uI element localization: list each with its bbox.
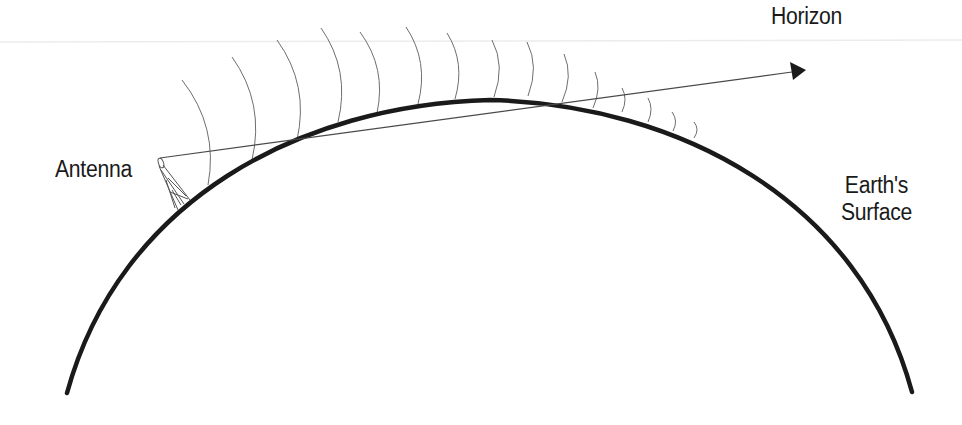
faint-top-rule [0, 40, 962, 42]
horizon-label: Horizon [771, 3, 842, 30]
wave-front-8 [492, 40, 499, 97]
wave-front-10 [562, 54, 568, 102]
wave-front-5 [360, 32, 380, 113]
antenna-tower-icon [157, 157, 190, 210]
earth-surface-label: Earth's Surface [841, 172, 912, 226]
wave-front-1 [182, 80, 210, 185]
wave-front-3 [277, 40, 300, 140]
wave-front-4 [321, 28, 342, 122]
earth-surface-label-line2: Surface [841, 199, 912, 226]
radio-horizon-diagram [0, 0, 962, 425]
wave-front-12 [622, 88, 625, 112]
wave-front-14 [672, 112, 676, 131]
earth-surface-arc [67, 100, 912, 393]
wave-front-2 [232, 57, 256, 160]
arrowhead-icon [790, 62, 806, 80]
antenna-label: Antenna [55, 156, 132, 183]
wave-front-13 [648, 98, 651, 122]
diagram-canvas: Horizon Antenna Earth's Surface [0, 0, 962, 425]
wave-front-11 [593, 72, 598, 108]
wave-front-7 [447, 33, 459, 99]
wave-front-15 [694, 122, 697, 138]
wave-front-9 [527, 42, 533, 96]
horizon-arrow [160, 62, 806, 158]
wave-fronts [182, 27, 697, 185]
wave-front-6 [406, 27, 422, 104]
earth-surface-label-line1: Earth's [841, 172, 912, 199]
